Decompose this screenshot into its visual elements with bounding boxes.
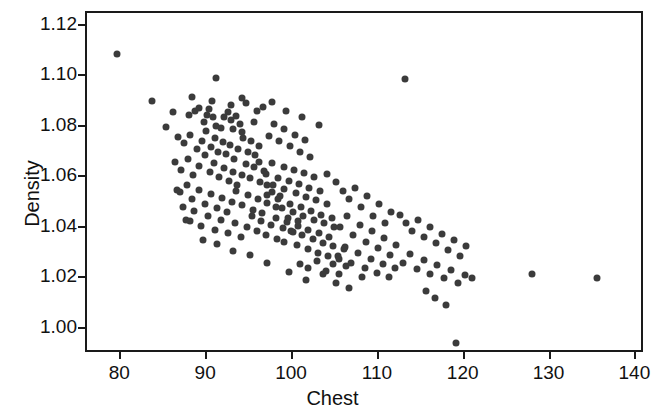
data-point (357, 204, 364, 211)
data-point (286, 143, 293, 150)
data-point (267, 221, 274, 228)
data-point (423, 287, 430, 294)
data-point (403, 220, 410, 227)
data-point (363, 239, 370, 246)
data-point (328, 215, 335, 222)
data-point (421, 234, 428, 241)
data-point (212, 75, 219, 82)
data-point (208, 191, 215, 198)
data-point (225, 177, 232, 184)
data-point (290, 209, 297, 216)
data-point (235, 146, 242, 153)
data-point (285, 177, 292, 184)
data-point (256, 178, 263, 185)
data-point (434, 262, 441, 269)
x-axis-tick-label: 110 (362, 362, 392, 384)
data-point (247, 138, 254, 145)
data-point (381, 220, 388, 227)
data-point (185, 155, 192, 162)
data-point (431, 295, 438, 302)
x-axis-tick (205, 352, 207, 359)
data-point (214, 241, 221, 248)
data-point (264, 191, 271, 198)
data-point (280, 163, 287, 170)
data-point (218, 195, 225, 202)
data-point (332, 179, 339, 186)
data-point (201, 151, 208, 158)
data-point (350, 231, 357, 238)
data-point (205, 212, 212, 219)
data-point (213, 205, 220, 212)
y-axis-tick (78, 125, 85, 127)
data-point (287, 200, 294, 207)
data-point (339, 188, 346, 195)
data-point (114, 50, 121, 57)
data-point (301, 170, 308, 177)
data-point (427, 224, 434, 231)
data-point (229, 199, 236, 206)
data-point (305, 265, 312, 272)
data-point (305, 226, 312, 233)
data-point (296, 148, 303, 155)
data-point (315, 230, 322, 237)
data-point (230, 155, 237, 162)
data-point (356, 221, 363, 228)
data-point (296, 261, 303, 268)
x-axis-tick (119, 352, 121, 359)
data-point (199, 137, 206, 144)
data-point (258, 217, 265, 224)
data-point (285, 268, 292, 275)
data-point (302, 277, 309, 284)
data-point (248, 213, 255, 220)
data-point (309, 236, 316, 243)
data-point (268, 98, 275, 105)
data-point (323, 201, 330, 208)
x-axis-tick (377, 352, 379, 359)
data-point (207, 143, 214, 150)
x-axis-tick (634, 352, 636, 359)
data-point (188, 196, 195, 203)
data-points-layer (87, 13, 641, 350)
data-point (362, 264, 369, 271)
data-point (397, 211, 404, 218)
data-point (433, 240, 440, 247)
data-point (344, 213, 351, 220)
y-axis-tick-label: 1.10 (40, 63, 77, 85)
data-point (442, 301, 449, 308)
data-point (240, 135, 247, 142)
data-point (386, 273, 393, 280)
data-point (348, 259, 355, 266)
data-point (223, 151, 230, 158)
data-point (245, 191, 252, 198)
data-point (381, 235, 388, 242)
data-point (427, 270, 434, 277)
data-point (295, 222, 302, 229)
data-point (271, 120, 278, 127)
data-point (302, 193, 309, 200)
data-point (409, 227, 416, 234)
x-axis-tick-label: 100 (275, 362, 307, 384)
data-point (401, 75, 408, 82)
data-point (255, 159, 262, 166)
x-axis-tick-label: 140 (619, 362, 651, 384)
data-point (190, 172, 197, 179)
data-point (253, 108, 260, 115)
data-point (374, 269, 381, 276)
y-axis-tick (78, 175, 85, 177)
y-axis-tick-label: 1.02 (40, 265, 77, 287)
y-axis-tick-label: 1.12 (40, 13, 77, 35)
data-point (351, 184, 358, 191)
data-point (198, 222, 205, 229)
data-point (454, 279, 461, 286)
y-axis-tick-label: 1.00 (40, 316, 77, 338)
data-point (247, 251, 254, 258)
data-point (468, 274, 475, 281)
data-point (273, 236, 280, 243)
y-axis-tick (78, 74, 85, 76)
data-point (297, 203, 304, 210)
data-point (275, 196, 282, 203)
data-point (253, 227, 260, 234)
data-point (162, 123, 169, 130)
data-point (278, 205, 285, 212)
data-point (380, 260, 387, 267)
